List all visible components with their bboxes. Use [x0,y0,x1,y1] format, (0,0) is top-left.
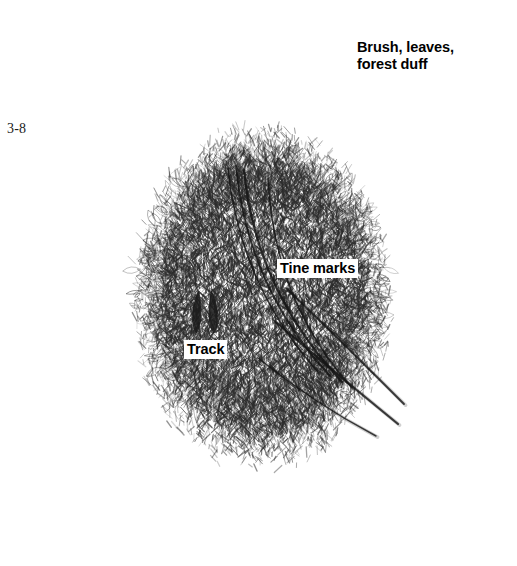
figure-page: 3-8 Brush, leaves,forest duff Tine marks… [0,0,517,566]
deer-scrape-illustration [0,0,517,566]
callout-brush-line2: forest duff [357,56,428,72]
callout-track: Track [184,340,227,359]
callout-brush-leaves-forest-duff: Brush, leaves,forest duff [354,38,457,74]
figure-number: 3-8 [7,121,26,137]
callout-brush-line1: Brush, leaves, [357,39,454,55]
callout-tine-marks: Tine marks [277,259,358,278]
scrape-core-texture [128,121,393,473]
